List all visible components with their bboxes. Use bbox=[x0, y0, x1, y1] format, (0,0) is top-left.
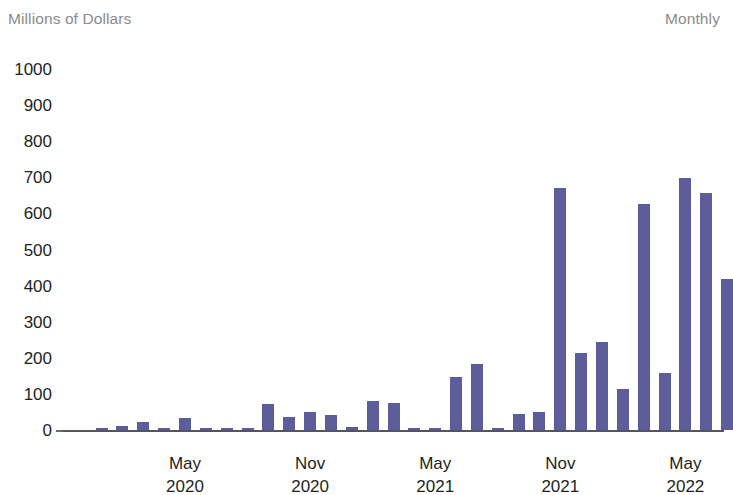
x-tick-year: 2021 bbox=[390, 475, 480, 495]
x-tick-year: 2021 bbox=[515, 475, 605, 495]
bar bbox=[262, 404, 274, 430]
bar bbox=[367, 401, 379, 430]
bar bbox=[596, 342, 608, 430]
bar bbox=[116, 426, 128, 430]
x-tick-may-2020: May2020 bbox=[140, 452, 230, 495]
x-tick-may-2022: May2022 bbox=[640, 452, 730, 495]
bar bbox=[283, 417, 295, 430]
bar bbox=[700, 193, 712, 430]
bar bbox=[638, 204, 650, 430]
x-tick-month: May bbox=[390, 452, 480, 475]
x-tick-year: 2022 bbox=[640, 475, 730, 495]
bar bbox=[617, 389, 629, 430]
plot-area: 10009008007006005004003002001000 bbox=[0, 0, 724, 440]
x-tick-month: May bbox=[640, 452, 730, 475]
bar bbox=[554, 188, 566, 430]
bar bbox=[96, 428, 108, 430]
bar bbox=[659, 373, 671, 430]
x-tick-month: May bbox=[140, 452, 230, 475]
bar bbox=[325, 415, 337, 430]
bar bbox=[721, 279, 733, 430]
bar bbox=[158, 428, 170, 430]
bar bbox=[221, 428, 233, 430]
x-tick-nov-2021: Nov2021 bbox=[515, 452, 605, 495]
bar bbox=[679, 178, 691, 430]
bar bbox=[492, 428, 504, 430]
bar bbox=[450, 377, 462, 430]
x-tick-nov-2020: Nov2020 bbox=[265, 452, 355, 495]
x-axis-tick-labels: May2020Nov2020May2021Nov2021May2022 bbox=[0, 440, 724, 495]
bar bbox=[179, 418, 191, 430]
bar bbox=[429, 428, 441, 430]
bar bbox=[137, 422, 149, 430]
x-tick-year: 2020 bbox=[265, 475, 355, 495]
bar bbox=[533, 412, 545, 430]
bar bbox=[513, 414, 525, 430]
bar bbox=[388, 403, 400, 430]
x-tick-may-2021: May2021 bbox=[390, 452, 480, 495]
bar bbox=[242, 428, 254, 430]
bar bbox=[575, 353, 587, 430]
bar bbox=[200, 428, 212, 430]
x-tick-month: Nov bbox=[515, 452, 605, 475]
bar-series bbox=[0, 0, 724, 440]
bar bbox=[346, 427, 358, 430]
bar bbox=[304, 412, 316, 430]
x-tick-year: 2020 bbox=[140, 475, 230, 495]
bar bbox=[471, 364, 483, 430]
bar bbox=[408, 428, 420, 430]
x-tick-month: Nov bbox=[265, 452, 355, 475]
